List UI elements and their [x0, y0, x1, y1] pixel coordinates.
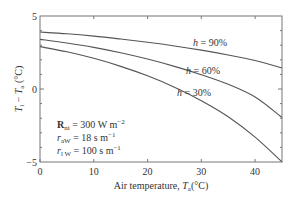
x-tick-label-40: 40 [250, 166, 260, 177]
annotation-rlw: rl W = 100 s m−1 [57, 144, 121, 158]
annotation-rni: Rni = 300 W m−2 [57, 118, 125, 132]
curve-h-60 [40, 39, 282, 117]
x-tick-label-0: 0 [38, 166, 43, 177]
y-tick-label-0: 0 [32, 84, 37, 95]
chart-canvas: h = 90% h = 60% h = 30% Rni = 300 W m−2 … [0, 0, 296, 203]
y-tick-label-5: 5 [32, 11, 37, 22]
x-tick-label-10: 10 [89, 166, 99, 177]
x-axis-label: Air temperature, Ta(°C) [114, 180, 209, 193]
x-tick-label-20: 20 [143, 166, 153, 177]
y-axis-label: Tl − Ta (°C) [13, 66, 26, 113]
label-h-90: h = 90% [193, 37, 227, 48]
label-h-60: h = 60% [186, 65, 220, 76]
annotation-raw: raW = 18 s m−1 [57, 131, 116, 145]
x-tick-label-30: 30 [196, 166, 206, 177]
label-h-30: h = 30% [177, 87, 211, 98]
y-tick-label-minus5: −5 [26, 157, 37, 168]
